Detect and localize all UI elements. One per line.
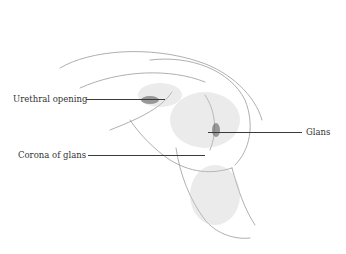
glans-leader [208,132,302,133]
label-glans: Glans [306,127,330,137]
urethral-opening-leader [86,99,165,100]
anatomical-sketch [0,0,346,254]
corona-of-glans-leader [88,155,205,156]
label-corona-of-glans: Corona of glans [18,150,86,160]
label-urethral-opening: Urethral opening [13,94,87,104]
